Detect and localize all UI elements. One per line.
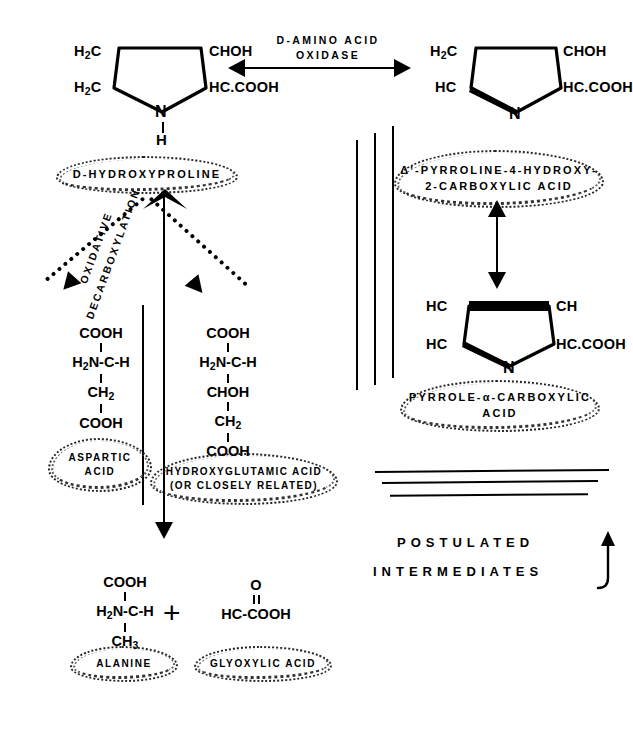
bond: [100, 343, 102, 352]
alanine-structure: COOH H2N-C-H CH3: [84, 575, 166, 651]
bottom-separator-line-3: [390, 493, 588, 496]
separator-line-3: [356, 140, 358, 390]
subscript: 2: [236, 419, 242, 431]
plus-sign: +: [163, 598, 181, 628]
aspartic-row-cooh-bottom: COOH: [62, 416, 140, 431]
dotted-arrow-right-head: [185, 274, 210, 299]
hxp-label-bottom-right: HC.COOH: [209, 80, 279, 95]
hydroxyproline-to-alanine-head: [155, 522, 173, 539]
bond: [227, 343, 229, 352]
separator-line-2: [374, 133, 376, 385]
pyrrole-label-top-right: CH: [556, 299, 577, 314]
bond: [227, 374, 229, 383]
glyoxylic-acid-structure: O HC-COOH: [206, 578, 306, 621]
pyrroline-label-bottom-right: HC.COOH: [563, 80, 633, 95]
label-text-block: PYRROLE-α-CARBOXYLIC ACID: [409, 390, 591, 422]
hg-row-cooh-top: COOH: [188, 326, 268, 341]
aspartic-row-ch2: CH2: [62, 385, 140, 402]
pyrroline-label-nitrogen: N: [509, 106, 521, 122]
label-text-block: HYDROXYGLUTAMIC ACID (OR CLOSELY RELATED…: [166, 465, 322, 494]
bond: [227, 433, 229, 442]
pyrrole-label-bottom-right: HC.COOH: [556, 337, 626, 352]
label-text: ALANINE: [96, 657, 152, 672]
label-text-block: ASPARTIC ACID: [68, 451, 131, 480]
glyoxylic-row-hc-cooh: HC-COOH: [206, 607, 306, 622]
bottom-separator-line-2: [382, 480, 598, 484]
label-line-1: PYRROLE-α-CARBOXYLIC: [409, 390, 591, 406]
label-text: D-HYDROXYPROLINE: [73, 167, 222, 183]
alanine-row-amino: H2N-C-H: [84, 604, 166, 621]
oxidase-label-line1: D-AMINO ACID: [253, 33, 403, 49]
oxidase-arrow-head-right: [394, 59, 411, 77]
bond: [100, 404, 102, 413]
glyoxylic-row-oxygen: O: [206, 578, 306, 593]
label-line-2: ACID: [68, 465, 131, 480]
double-bond: [253, 595, 260, 604]
label-hydroxyglutamic-acid: HYDROXYGLUTAMIC ACID (OR CLOSELY RELATED…: [152, 455, 336, 503]
label-pyrrole-carboxylic-acid: PYRROLE-α-CARBOXYLIC ACID: [402, 382, 598, 430]
curved-up-arrow-icon: [586, 528, 616, 590]
label-line-1: HYDROXYGLUTAMIC ACID: [166, 465, 322, 480]
label-pyrroline-carboxylic-acid: Δ'-PYRROLINE-4-HYDROXY- 2-CARBOXYLIC ACI…: [396, 152, 602, 206]
label-glyoxylic-acid: GLYOXYLIC ACID: [196, 648, 330, 680]
hxp-label-nh-hydrogen: H: [156, 132, 167, 147]
pyrroline-label-top-right: CHOH: [563, 44, 607, 59]
bottom-separator-line-1: [375, 469, 609, 473]
aspartic-acid-structure: COOH H2N-C-H CH2 COOH: [62, 326, 140, 430]
hxp-label-top-left: H2C: [74, 44, 101, 61]
pyrroline-pyrrole-arrow-shaft: [496, 214, 498, 276]
pyrrole-label-top-left: HC: [426, 299, 447, 314]
label-line-2: (OR CLOSELY RELATED): [166, 479, 322, 494]
label-text-block: Δ'-PYRROLINE-4-HYDROXY- 2-CARBOXYLIC ACI…: [400, 163, 598, 195]
subscript: 2: [109, 390, 115, 402]
aspartic-row-cooh-top: COOH: [62, 326, 140, 341]
intermediates-text: INTERMEDIATES: [373, 560, 543, 585]
pyrroline-label-bottom-left: HC: [435, 80, 456, 95]
hxp-label-bottom-left: H2C: [74, 80, 101, 97]
postulated-text: POSTULATED: [397, 531, 534, 556]
label-line-1: ASPARTIC: [68, 451, 131, 466]
postulated-intermediates-arrow: [586, 528, 616, 590]
label-line-2: 2-CARBOXYLIC ACID: [400, 179, 598, 195]
hg-row-amino: H2N-C-H: [188, 355, 268, 372]
label-line-2: ACID: [409, 406, 591, 422]
hxp-label-nitrogen: N: [155, 104, 167, 120]
pyrroline-pyrrole-arrow-head-up: [488, 200, 506, 217]
label-alanine: ALANINE: [72, 648, 176, 680]
bond: [124, 592, 126, 601]
oxidase-arrow-head-left: [228, 59, 245, 77]
separator-line-1: [392, 126, 394, 378]
bond: [227, 402, 229, 411]
bond: [100, 374, 102, 383]
label-text: GLYOXYLIC ACID: [210, 657, 316, 672]
feather-icon: [142, 188, 188, 210]
hxp-label-top-right: CHOH: [209, 44, 253, 59]
hg-row-ch2: CH2: [188, 414, 268, 431]
pyrroline-label-top-left: H2C: [430, 44, 457, 61]
oxidase-label-line2: OXIDASE: [253, 48, 403, 64]
hydroxyproline-arrow-feather: [142, 188, 188, 210]
label-aspartic-acid: ASPARTIC ACID: [50, 440, 150, 490]
label-line-1: Δ'-PYRROLINE-4-HYDROXY-: [400, 163, 598, 179]
alanine-row-cooh: COOH: [84, 575, 166, 590]
hydroxyglutamic-acid-structure: COOH H2N-C-H CHOH CH2 COOH: [188, 326, 268, 459]
hg-row-choh: CHOH: [188, 385, 268, 400]
oxidase-arrow-shaft: [243, 67, 396, 69]
pyrroline-pyrrole-arrow-head-down: [488, 272, 506, 289]
aspartic-row-amino: H2N-C-H: [62, 355, 140, 372]
pyrrole-label-nitrogen: N: [503, 360, 515, 376]
pyrrole-label-bottom-left: HC: [426, 337, 447, 352]
label-d-hydroxyproline: D-HYDROXYPROLINE: [58, 158, 236, 192]
bond: [124, 623, 126, 632]
